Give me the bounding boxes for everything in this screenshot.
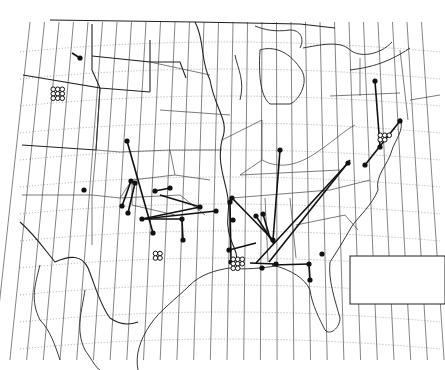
track-lines <box>72 53 400 280</box>
track-point <box>213 208 218 213</box>
track-point <box>260 211 265 216</box>
track-point <box>139 216 144 221</box>
meridian-line <box>227 22 233 360</box>
track-point <box>125 210 130 215</box>
cluster-point <box>235 257 240 262</box>
cluster-point <box>60 91 65 96</box>
track-point <box>132 180 137 185</box>
track-point <box>227 199 232 204</box>
cluster-point <box>378 133 383 138</box>
track-point <box>372 78 377 83</box>
meridian-line <box>378 22 394 360</box>
meridian-line <box>393 22 411 360</box>
track-point <box>319 251 324 256</box>
meridian-line <box>364 22 378 360</box>
meridian-line <box>422 22 445 360</box>
cluster-point <box>240 261 245 266</box>
track-line <box>256 163 348 263</box>
cluster-point <box>60 96 65 101</box>
meridian-line <box>160 22 175 360</box>
track-point <box>226 247 231 252</box>
track-point <box>179 216 184 221</box>
track-point <box>259 265 264 270</box>
track-point <box>362 162 367 167</box>
cluster-point <box>153 256 158 261</box>
meridian-line <box>27 22 59 360</box>
cluster-point <box>153 251 158 256</box>
cluster-point <box>382 133 387 138</box>
track-point <box>270 237 275 242</box>
texas-cluster <box>153 251 162 260</box>
track-point <box>124 138 129 143</box>
cluster-point <box>378 137 383 142</box>
meridian-line <box>127 22 146 360</box>
cluster-point <box>231 257 236 262</box>
track-point <box>180 237 185 242</box>
meridian-line <box>43 22 73 360</box>
meridian-line <box>407 22 427 360</box>
meridian-line <box>306 22 311 360</box>
cluster-point <box>387 133 392 138</box>
track-point <box>152 188 157 193</box>
track-point <box>150 230 155 235</box>
meridian-line <box>10 22 45 360</box>
track-line <box>160 195 200 207</box>
parallel-line <box>20 42 440 52</box>
migration-track-map <box>0 0 445 370</box>
cluster-point <box>158 256 163 261</box>
track-point <box>197 204 202 209</box>
meridian-line <box>291 22 294 360</box>
cluster-point <box>60 87 65 92</box>
track-point <box>77 55 82 60</box>
cluster-point <box>55 96 60 101</box>
track-line <box>182 220 183 240</box>
track-point <box>119 203 124 208</box>
parallel-line <box>20 69 440 79</box>
track-point <box>345 160 350 165</box>
track-point <box>253 213 258 218</box>
inset-box <box>350 256 445 304</box>
track-point <box>273 261 278 266</box>
cluster-point <box>158 251 163 256</box>
meridian-line <box>244 22 248 360</box>
cluster-point <box>235 266 240 271</box>
track-point <box>306 261 311 266</box>
cluster-point <box>51 87 56 92</box>
cluster-point <box>51 91 56 96</box>
meridian-line <box>177 22 190 360</box>
meridian-line <box>260 22 262 360</box>
meridian-line <box>210 22 218 360</box>
chesapeake-cluster <box>378 133 392 142</box>
track-point <box>397 118 402 123</box>
track-point <box>167 185 172 190</box>
track-point <box>377 144 382 149</box>
parallel-line <box>20 123 440 133</box>
track-point <box>230 217 235 222</box>
map-canvas <box>0 0 445 370</box>
cluster-point <box>55 91 60 96</box>
cluster-point <box>382 137 387 142</box>
parallel-line <box>20 312 440 322</box>
track-point <box>307 277 312 282</box>
cluster-point <box>51 96 56 101</box>
track-point <box>277 147 282 152</box>
cluster-point <box>240 257 245 262</box>
meridian-line <box>335 22 344 360</box>
rocky-mountain-cluster <box>51 87 65 101</box>
track-line <box>269 160 350 262</box>
track-point <box>81 187 86 192</box>
cluster-point <box>231 266 236 271</box>
parallel-line <box>20 150 440 160</box>
cluster-point <box>55 87 60 92</box>
cluster-point <box>231 261 236 266</box>
cluster-point <box>235 261 240 266</box>
track-line <box>143 211 216 219</box>
track-line <box>230 202 231 262</box>
track-line <box>250 263 276 264</box>
